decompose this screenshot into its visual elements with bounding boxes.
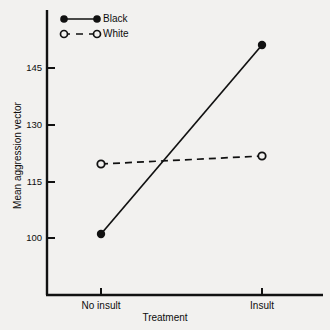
legend-white-sample [61, 31, 101, 38]
x-axis-title: Treatment [0, 312, 330, 323]
series-white-point-no-insult [97, 160, 104, 167]
series-black [97, 41, 266, 238]
legend-label-white: White [103, 28, 129, 39]
series-black-point-no-insult [97, 230, 105, 238]
legend-black-sample [60, 15, 101, 23]
chart-figure: 145 130 115 100 No insult Insult Treatme… [0, 0, 330, 330]
series-black-point-insult [258, 41, 266, 49]
series-white-line [101, 156, 262, 164]
x-tick-label-no-insult: No insult [51, 300, 151, 311]
series-white-point-insult [258, 152, 265, 159]
legend-label-black: Black [103, 13, 127, 24]
chart-plot-area [0, 0, 330, 330]
y-tick-label-100: 100 [6, 232, 42, 243]
y-axis-title: Mean aggression vector [12, 86, 23, 226]
y-tick-label-145: 145 [6, 62, 42, 73]
x-tick-label-insult: Insult [222, 300, 302, 311]
series-white [97, 152, 265, 167]
series-black-line [101, 45, 262, 234]
